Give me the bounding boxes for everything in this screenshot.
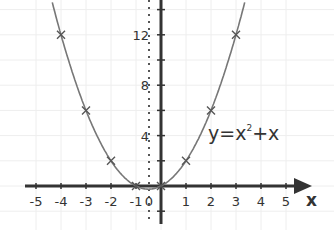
axes: [25, 0, 312, 224]
y-tick-label: 4: [141, 129, 149, 144]
x-tick-label: -2: [105, 194, 118, 209]
x-tick-label: 5: [282, 194, 290, 209]
x-tick-label: -3: [80, 194, 93, 209]
equation-label: y=x2+x: [208, 122, 279, 144]
x-tick-label: -5: [30, 194, 43, 209]
y-tick-label: 8: [141, 78, 149, 93]
x-tick-label: 4: [257, 194, 265, 209]
y-tick-label: 12: [132, 28, 149, 43]
x-tick-label: 3: [232, 194, 240, 209]
x-tick-label: 2: [207, 194, 215, 209]
x-tick-label: 1: [182, 194, 190, 209]
parabola-chart: -5-4-3-2-10123454812 x y=x2+x: [0, 0, 334, 245]
x-tick-label: -4: [55, 194, 68, 209]
x-tick-label: 0: [145, 194, 153, 209]
x-axis-label: x: [306, 190, 317, 210]
x-tick-label: -1: [130, 194, 143, 209]
